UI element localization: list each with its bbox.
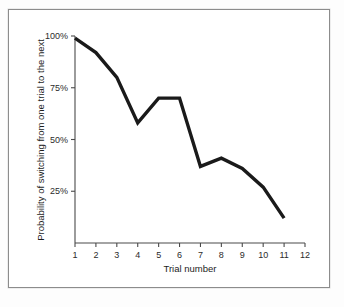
data-series-line <box>75 38 284 218</box>
y-tick-label-75: 75% <box>50 83 68 93</box>
x-tick-label-9: 9 <box>240 250 245 260</box>
x-tick-label-7: 7 <box>198 250 203 260</box>
y-tick-label-50: 50% <box>50 135 68 145</box>
x-tick-label-8: 8 <box>219 250 224 260</box>
x-tick-label-3: 3 <box>114 250 119 260</box>
x-tick-label-6: 6 <box>177 250 182 260</box>
y-axis-title: Probability of switching from one trial … <box>35 39 46 241</box>
y-tick-label-100: 100% <box>45 31 68 41</box>
x-tick-label-11: 11 <box>279 250 288 260</box>
x-axis-ticks <box>75 243 305 247</box>
x-tick-label-2: 2 <box>93 250 98 260</box>
x-axis-tick-labels: 123456789101112 <box>72 250 310 260</box>
x-axis-title: Trial number <box>164 263 217 274</box>
x-tick-label-1: 1 <box>72 250 77 260</box>
y-tick-label-25: 25% <box>50 186 68 196</box>
line-chart: 25%50%75%100% 123456789101112 Trial numb… <box>0 0 344 307</box>
y-axis-ticks <box>71 36 75 191</box>
figure-root: 25%50%75%100% 123456789101112 Trial numb… <box>0 0 344 307</box>
y-axis-tick-labels: 25%50%75%100% <box>45 31 68 196</box>
x-tick-label-12: 12 <box>300 250 310 260</box>
x-tick-label-10: 10 <box>258 250 268 260</box>
x-tick-label-5: 5 <box>156 250 161 260</box>
x-tick-label-4: 4 <box>135 250 140 260</box>
